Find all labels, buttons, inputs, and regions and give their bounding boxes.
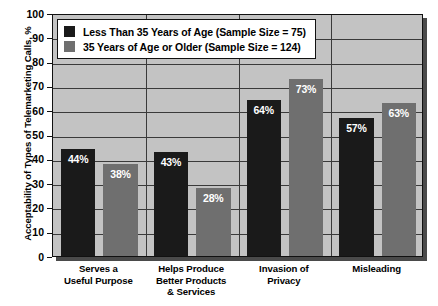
gridline-70 — [53, 88, 422, 89]
y-tick-label-80: 80 — [14, 57, 44, 68]
category-label-line: Misleading — [330, 263, 423, 275]
bar-value-label: 63% — [382, 107, 416, 119]
bar-young-2: 64% — [247, 100, 281, 256]
bar-young-1: 43% — [154, 152, 188, 256]
legend-item-young: Less Than 35 Years of Age (Sample Size =… — [64, 24, 306, 39]
bar-older-1: 28% — [196, 188, 230, 256]
y-tick-mark-0 — [47, 257, 52, 258]
group-separator-3 — [331, 15, 332, 256]
y-tick-label-20: 20 — [14, 203, 44, 214]
bar-older-0: 38% — [103, 164, 137, 256]
category-label-line: & Services — [145, 286, 238, 298]
bar-value-label: 38% — [103, 168, 137, 180]
y-tick-label-0: 0 — [14, 252, 44, 263]
y-tick-label-40: 40 — [14, 154, 44, 165]
legend-swatch-icon-young — [64, 26, 75, 37]
legend-label-young: Less Than 35 Years of Age (Sample Size =… — [83, 26, 306, 38]
legend-item-older: 35 Years of Age or Older (Sample Size = … — [64, 39, 306, 54]
gridline-80 — [53, 64, 422, 65]
category-label-0: Serves aUseful Purpose — [52, 263, 145, 286]
bar-value-label: 73% — [289, 83, 323, 95]
bar-young-3: 57% — [339, 118, 373, 257]
category-label-line: Serves a — [52, 263, 145, 275]
bar-value-label: 43% — [154, 156, 188, 168]
category-label-3: Misleading — [330, 263, 423, 275]
bar-value-label: 44% — [61, 153, 95, 165]
y-tick-label-70: 70 — [14, 81, 44, 92]
bar-value-label: 57% — [339, 122, 373, 134]
bar-older-3: 63% — [382, 103, 416, 256]
category-label-line: Helps Produce — [145, 263, 238, 275]
legend: Less Than 35 Years of Age (Sample Size =… — [57, 19, 316, 59]
category-label-line: Useful Purpose — [52, 275, 145, 287]
y-tick-label-100: 100 — [14, 9, 44, 20]
y-tick-label-30: 30 — [14, 179, 44, 190]
legend-label-older: 35 Years of Age or Older (Sample Size = … — [83, 41, 301, 53]
category-label-line: Privacy — [238, 275, 331, 287]
y-tick-label-60: 60 — [14, 106, 44, 117]
category-label-2: Invasion ofPrivacy — [238, 263, 331, 286]
legend-swatch-icon-older — [64, 41, 75, 52]
gridline-60 — [53, 112, 422, 113]
bar-value-label: 64% — [247, 104, 281, 116]
category-label-line: Better Products — [145, 275, 238, 287]
y-tick-label-90: 90 — [14, 33, 44, 44]
bar-older-2: 73% — [289, 79, 323, 256]
category-label-line: Invasion of — [238, 263, 331, 275]
bar-young-0: 44% — [61, 149, 95, 256]
category-label-1: Helps ProduceBetter Products& Services — [145, 263, 238, 298]
bar-chart: Acceptability of Types of Telemarketing … — [0, 0, 438, 306]
bar-value-label: 28% — [196, 192, 230, 204]
y-tick-label-50: 50 — [14, 130, 44, 141]
y-tick-label-10: 10 — [14, 227, 44, 238]
